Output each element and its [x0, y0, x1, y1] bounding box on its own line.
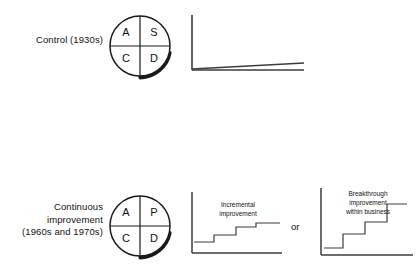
diagram-row-continuous-improvement: Continuous improvement (1960s and 1970s)…: [0, 90, 419, 180]
quadrant-letter-top-left: A: [122, 26, 130, 38]
quadrant-letter-top-right: S: [150, 26, 157, 38]
chart-series-line: [192, 63, 304, 69]
diagram-row-control: Control (1930s) A S C D: [0, 0, 419, 90]
row-label-control: Control (1930s): [0, 34, 103, 47]
quadrant-letter-bottom-right: D: [150, 52, 158, 64]
diagram-row-breakthrough-new-business: Breakthrough into a new business (1990s)…: [0, 180, 419, 271]
diagram-root: Control (1930s) A S C D: [0, 0, 419, 271]
quadrant-letter-bottom-left: C: [122, 52, 130, 64]
chart-control: [186, 14, 308, 77]
pdca-circle-control: A S C D: [106, 12, 174, 80]
row-label-line: Control (1930s): [0, 34, 103, 47]
